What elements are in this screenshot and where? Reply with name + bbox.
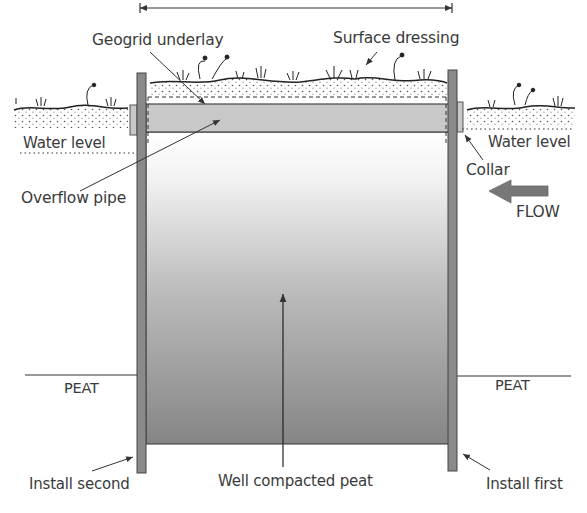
label-geogrid-underlay: Geogrid underlay bbox=[92, 33, 224, 49]
label-peat-left: PEAT bbox=[64, 381, 99, 396]
surface-dressing-pointer bbox=[366, 52, 377, 65]
label-water-level-right: Water level bbox=[488, 135, 571, 150]
install-first-pointer bbox=[463, 454, 490, 470]
label-flow: FLOW bbox=[516, 205, 560, 221]
post-left bbox=[137, 73, 146, 473]
collar-left bbox=[130, 105, 137, 135]
label-install-first: Install first bbox=[486, 477, 563, 492]
diagram-graphics bbox=[0, 0, 587, 513]
label-water-level-left: Water level bbox=[23, 136, 106, 151]
collar-pointer bbox=[465, 135, 483, 160]
dimension-line bbox=[140, 3, 452, 13]
right-ground-surface bbox=[467, 83, 575, 125]
label-install-second: Install second bbox=[29, 477, 130, 492]
label-overflow-pipe: Overflow pipe bbox=[21, 191, 126, 207]
post-right bbox=[448, 70, 457, 471]
geogrid-pointer bbox=[150, 52, 205, 104]
collar-right bbox=[457, 102, 463, 132]
label-surface-dressing: Surface dressing bbox=[333, 31, 459, 47]
overflow-pipe bbox=[146, 104, 449, 132]
left-ground-surface bbox=[14, 83, 128, 128]
label-collar: Collar bbox=[466, 163, 510, 179]
surface-dressing bbox=[150, 53, 447, 96]
label-well-compacted-peat: Well compacted peat bbox=[218, 474, 373, 489]
flow-arrow-icon bbox=[489, 180, 548, 203]
install-second-pointer bbox=[92, 457, 133, 471]
compacted-peat-fill bbox=[146, 132, 449, 444]
label-peat-right: PEAT bbox=[495, 378, 530, 393]
dam-diagram: Geogrid underlay Surface dressing Water … bbox=[0, 0, 587, 513]
